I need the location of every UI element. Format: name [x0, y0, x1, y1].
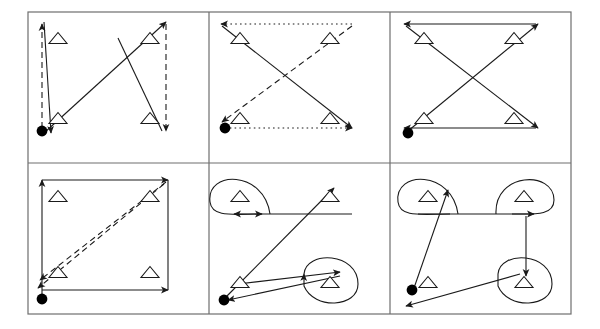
edge-solid — [406, 274, 520, 306]
waypoint-triangle — [515, 191, 533, 202]
edge-solid — [118, 38, 162, 131]
panel-5 — [210, 179, 358, 305]
waypoint-triangle — [141, 191, 159, 202]
panel-4 — [37, 180, 168, 304]
waypoint-triangle — [419, 277, 437, 288]
waypoint-triangle — [321, 113, 339, 124]
waypoint-triangle — [515, 277, 533, 288]
edge-solid — [414, 190, 448, 288]
waypoint-triangle — [419, 191, 437, 202]
waypoint-triangle — [49, 267, 67, 278]
waypoint-triangle — [141, 267, 159, 278]
waypoint-triangle — [321, 277, 339, 288]
panel-2 — [220, 24, 352, 133]
waypoint-triangle — [321, 191, 339, 202]
panel-6 — [398, 179, 554, 306]
start-node — [219, 295, 230, 306]
waypoint-triangle — [321, 33, 339, 44]
start-node — [37, 294, 48, 305]
waypoint-triangle — [49, 33, 67, 44]
start-node — [37, 126, 48, 137]
panel-grid-svg — [0, 0, 600, 329]
waypoint-triangle — [415, 113, 433, 124]
edge-solid — [44, 22, 51, 133]
start-node — [403, 128, 414, 139]
waypoint-triangle — [415, 33, 433, 44]
start-node — [407, 285, 418, 296]
panel-1 — [37, 22, 166, 136]
start-node — [220, 123, 231, 134]
waypoint-triangle — [231, 277, 249, 288]
waypoint-triangle — [231, 113, 249, 124]
panel-3 — [403, 24, 538, 138]
waypoint-triangle — [49, 191, 67, 202]
waypoint-triangle — [231, 191, 249, 202]
waypoint-triangle — [141, 33, 159, 44]
waypoint-triangle — [231, 33, 249, 44]
figure-canvas — [0, 0, 600, 329]
